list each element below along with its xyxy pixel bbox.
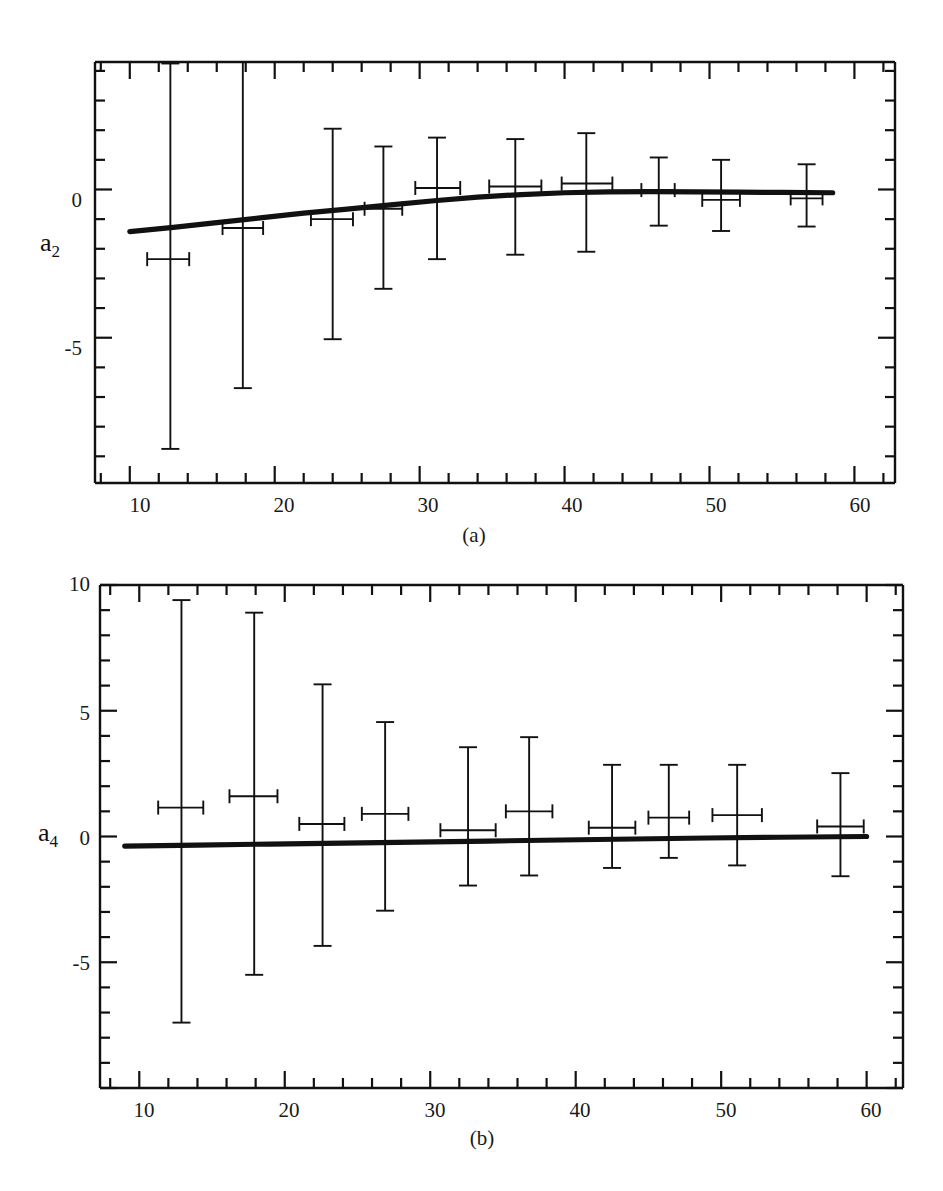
- data-point-errorbar: [589, 765, 636, 868]
- panel-b-ytick-label-0: 10: [38, 572, 90, 597]
- panel-a-xtick-label-2: 30: [402, 493, 454, 518]
- panel-b-xtick-label-5: 60: [845, 1098, 897, 1123]
- plot-svg: [0, 0, 943, 1191]
- data-point-errorbar: [299, 684, 344, 946]
- panel-a-fit-curve: [130, 192, 833, 232]
- data-point-errorbar: [440, 747, 495, 885]
- panel-b-xtick-label-4: 50: [700, 1098, 752, 1123]
- panel-a-y-axis-label: a2: [40, 228, 60, 262]
- panel-a-y-axis-label-text: a: [40, 228, 52, 257]
- panel-a-xtick-label-3: 40: [546, 493, 598, 518]
- panel-a-ytick-label-0: 0: [40, 188, 82, 213]
- panel-b-ytick-label-2: 0: [46, 826, 90, 851]
- panel-a-group: [95, 62, 895, 483]
- panel-a-caption: (a): [444, 523, 504, 548]
- panel-a-xtick-label-1: 20: [258, 493, 310, 518]
- data-point-errorbar: [817, 773, 864, 876]
- panel-a-xtick-label-0: 10: [114, 493, 166, 518]
- data-point-errorbar: [223, 62, 264, 388]
- plot-canvas: [0, 0, 943, 1191]
- panel-a-y-axis-label-subscript: 2: [52, 242, 61, 261]
- panel-b-fit-curve: [125, 837, 867, 847]
- panel-b-xtick-label-3: 40: [554, 1098, 606, 1123]
- panel-b-group: [100, 585, 903, 1088]
- panel-b-ytick-label-1: 5: [46, 701, 90, 726]
- panel-b-caption: (b): [452, 1126, 512, 1151]
- data-point-errorbar: [648, 765, 689, 858]
- panel-a-xtick-label-5: 60: [834, 493, 886, 518]
- panel-b-errorbars: [158, 600, 864, 1023]
- panel-a-errorbars: [147, 62, 822, 449]
- panel-a-xtick-label-4: 50: [690, 493, 742, 518]
- panel-b-xtick-label-1: 20: [263, 1098, 315, 1123]
- data-point-errorbar: [712, 765, 761, 866]
- panel-b-ytick-label-3: -5: [36, 951, 90, 976]
- data-point-errorbar: [229, 613, 277, 975]
- data-point-errorbar: [311, 129, 353, 339]
- data-point-errorbar: [791, 164, 823, 226]
- data-point-errorbar: [506, 737, 553, 875]
- data-point-errorbar: [158, 600, 203, 1023]
- figure-root: a2 0 -5 10 20 30 40 50 60 (a) a4 10 5 0 …: [0, 0, 943, 1191]
- panel-b-xtick-label-0: 10: [118, 1098, 170, 1123]
- panel-a-ytick-label-1: -5: [34, 336, 82, 361]
- data-point-errorbar: [702, 160, 740, 231]
- panel-b-xtick-label-2: 30: [409, 1098, 461, 1123]
- data-point-errorbar: [362, 722, 409, 911]
- data-point-errorbar: [365, 146, 403, 288]
- data-point-errorbar: [147, 63, 189, 448]
